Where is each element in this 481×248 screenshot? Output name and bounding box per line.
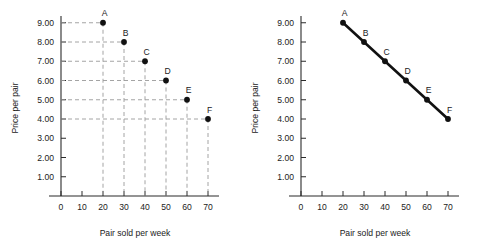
y-axis-title: Price per pair [250, 82, 260, 133]
data-point-e[interactable] [424, 97, 430, 103]
y-tick-label: 2.00 [37, 153, 54, 163]
chart-panel-right: 1.002.003.004.005.006.007.008.009.000102… [240, 0, 481, 248]
data-point-label-b: B [363, 28, 369, 38]
x-tick-label: 10 [317, 202, 327, 212]
y-tick-label: 3.00 [37, 133, 54, 143]
data-point-label-d: D [164, 66, 170, 76]
y-tick-label: 9.00 [277, 18, 294, 28]
y-tick-label: 8.00 [277, 37, 294, 47]
chart-panel-left: 1.002.003.004.005.006.007.008.009.000102… [0, 0, 241, 248]
x-tick-label: 30 [119, 202, 129, 212]
x-tick-label: 50 [161, 202, 171, 212]
y-tick-label: 2.00 [277, 153, 294, 163]
y-tick-label: 7.00 [37, 56, 54, 66]
data-point-f[interactable] [445, 116, 451, 122]
data-point-b[interactable] [361, 39, 367, 45]
data-point-d[interactable] [163, 78, 169, 84]
x-tick-label: 20 [98, 202, 108, 212]
data-point-c[interactable] [142, 58, 148, 64]
x-tick-label: 20 [338, 202, 348, 212]
data-point-label-f: F [207, 105, 212, 115]
data-point-label-b: B [123, 28, 129, 38]
x-axis-title: Pair sold per week [100, 228, 171, 238]
data-point-label-a: A [342, 8, 348, 18]
data-point-label-e: E [426, 85, 432, 95]
y-tick-label: 8.00 [37, 37, 54, 47]
x-tick-label: 50 [401, 202, 411, 212]
data-point-a[interactable] [340, 20, 346, 26]
figure-root: 1.002.003.004.005.006.007.008.009.000102… [0, 0, 481, 248]
data-point-label-c: C [143, 47, 149, 57]
y-tick-label: 5.00 [37, 95, 54, 105]
y-tick-label: 3.00 [277, 133, 294, 143]
data-point-b[interactable] [121, 39, 127, 45]
x-tick-label: 30 [359, 202, 369, 212]
x-tick-label: 40 [140, 202, 150, 212]
y-tick-label: 4.00 [277, 114, 294, 124]
data-point-label-d: D [404, 66, 410, 76]
y-tick-label: 1.00 [277, 172, 294, 182]
y-tick-label: 4.00 [37, 114, 54, 124]
data-point-e[interactable] [184, 97, 190, 103]
x-tick-label: 70 [203, 202, 213, 212]
line-plot-svg: 1.002.003.004.005.006.007.008.009.000102… [240, 0, 481, 248]
data-point-label-f: F [447, 105, 452, 115]
x-tick-label: 60 [422, 202, 432, 212]
x-tick-label: 0 [59, 202, 64, 212]
y-tick-label: 7.00 [277, 56, 294, 66]
x-tick-label: 60 [182, 202, 192, 212]
data-point-label-e: E [186, 85, 192, 95]
data-point-label-a: A [102, 8, 108, 18]
data-point-label-c: C [383, 47, 389, 57]
demand-curve-line [343, 23, 448, 119]
y-tick-label: 1.00 [37, 172, 54, 182]
data-point-c[interactable] [382, 58, 388, 64]
x-axis-title: Pair sold per week [340, 228, 411, 238]
x-tick-label: 0 [299, 202, 304, 212]
y-tick-label: 9.00 [37, 18, 54, 28]
data-point-a[interactable] [100, 20, 106, 26]
x-tick-label: 70 [443, 202, 453, 212]
data-point-d[interactable] [403, 78, 409, 84]
y-tick-label: 6.00 [37, 76, 54, 86]
y-tick-label: 6.00 [277, 76, 294, 86]
x-tick-label: 10 [77, 202, 87, 212]
y-tick-label: 5.00 [277, 95, 294, 105]
data-point-f[interactable] [205, 116, 211, 122]
x-tick-label: 40 [380, 202, 390, 212]
scatter-plot-svg: 1.002.003.004.005.006.007.008.009.000102… [0, 0, 241, 248]
y-axis-title: Price per pair [10, 82, 20, 133]
